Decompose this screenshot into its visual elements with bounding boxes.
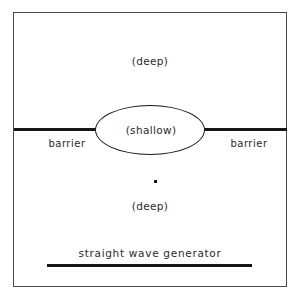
deep-region-bottom-label: (deep) [132, 201, 169, 212]
barrier-right-label: barrier [230, 139, 267, 149]
barrier-line-right [199, 128, 287, 131]
barrier-line-left [14, 128, 97, 131]
wave-generator-bar [47, 264, 252, 267]
deep-region-top-label: (deep) [132, 56, 169, 67]
shallow-region-label: (shallow) [126, 125, 177, 136]
wave-tank-diagram: (deep) (shallow) barrier barrier (deep) … [0, 0, 301, 301]
barrier-left-label: barrier [48, 139, 85, 149]
wave-generator-label: straight wave generator [78, 248, 221, 259]
observation-point-dot [154, 180, 157, 183]
